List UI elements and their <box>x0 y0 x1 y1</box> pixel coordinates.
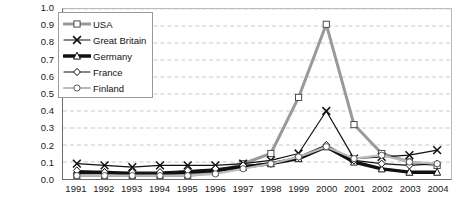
y-tick-label: 0.0 <box>0 175 54 185</box>
y-tick-label: 1.0 <box>0 3 54 13</box>
legend-item-france[interactable]: France <box>59 64 152 80</box>
legend-marker-circle-icon <box>63 81 91 95</box>
x-tick-label: 1995 <box>177 184 198 194</box>
y-tick-label: 0.7 <box>0 55 54 65</box>
y-tick-label: 0.2 <box>0 141 54 151</box>
chart-legend: USAGreat BritainGermanyFranceFinland <box>58 12 153 98</box>
y-tick-label: 0.5 <box>0 89 54 99</box>
x-tick-label: 1994 <box>149 184 170 194</box>
legend-marker-x-icon <box>63 33 91 47</box>
x-tick-label: 2002 <box>372 184 393 194</box>
legend-label: Germany <box>93 51 132 62</box>
legend-item-usa[interactable]: USA <box>59 16 152 32</box>
legend-marker-diamond-icon <box>63 65 91 79</box>
series-great-britain <box>73 107 441 171</box>
legend-label: Great Britain <box>93 35 146 46</box>
legend-item-finland[interactable]: Finland <box>59 80 152 96</box>
line-chart: 0.00.10.20.30.40.50.60.70.80.91.0 199119… <box>0 0 463 218</box>
legend-item-germany[interactable]: Germany <box>59 48 152 64</box>
y-tick-label: 0.9 <box>0 20 54 30</box>
y-axis-tick-labels: 0.00.10.20.30.40.50.60.70.80.91.0 <box>0 8 56 180</box>
x-tick-label: 2001 <box>344 184 365 194</box>
x-tick-label: 1997 <box>232 184 253 194</box>
y-tick-label: 0.3 <box>0 124 54 134</box>
y-tick-label: 0.8 <box>0 38 54 48</box>
y-tick-label: 0.4 <box>0 106 54 116</box>
x-tick-label: 1991 <box>65 184 86 194</box>
legend-label: Finland <box>93 83 124 94</box>
legend-marker-square-icon <box>63 17 91 31</box>
y-tick-label: 0.6 <box>0 72 54 82</box>
legend-label: France <box>93 67 123 78</box>
y-tick-label: 0.1 <box>0 158 54 168</box>
x-tick-label: 1996 <box>205 184 226 194</box>
x-tick-label: 2003 <box>400 184 421 194</box>
x-tick-label: 2004 <box>427 184 448 194</box>
x-tick-label: 1998 <box>260 184 281 194</box>
x-tick-label: 1992 <box>93 184 114 194</box>
x-tick-label: 1993 <box>121 184 142 194</box>
legend-label: USA <box>93 19 113 30</box>
legend-item-great-britain[interactable]: Great Britain <box>59 32 152 48</box>
x-axis-tick-labels: 1991199219931994199519961997199819992000… <box>62 184 452 204</box>
x-tick-label: 1999 <box>288 184 309 194</box>
legend-marker-triangle-icon <box>63 49 91 63</box>
x-tick-label: 2000 <box>316 184 337 194</box>
